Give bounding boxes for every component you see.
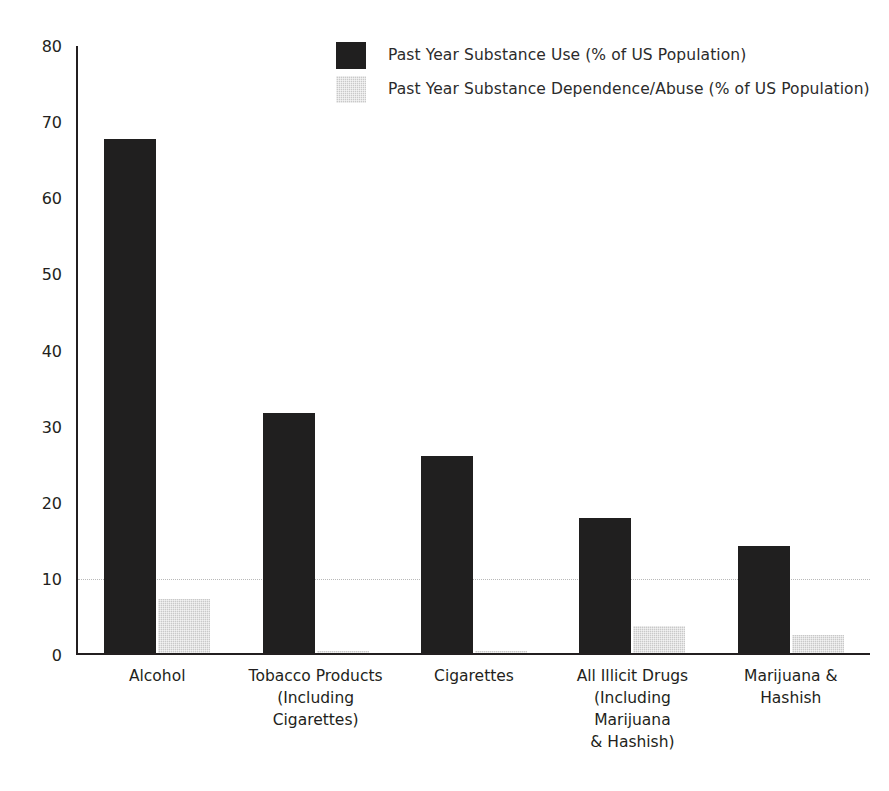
bar-substance-use[interactable] — [579, 518, 631, 654]
x-axis-tick-label: All Illicit Drugs(Including Marijuana& H… — [553, 665, 711, 753]
bar-substance-use[interactable] — [263, 413, 315, 653]
y-axis-tick-label: 30 — [42, 417, 62, 436]
bar-substance-use[interactable] — [738, 546, 790, 653]
bar-group — [553, 46, 711, 653]
bar-chart-figure: Past Year Substance Use (% of US Populat… — [0, 0, 889, 791]
y-axis-tick-label: 20 — [42, 493, 62, 512]
x-axis-tick-label-line: Tobacco Products — [238, 665, 392, 687]
y-axis-tick-label: 50 — [42, 265, 62, 284]
x-axis-tick-label: Tobacco Products(Including Cigarettes) — [236, 665, 394, 753]
x-axis-tick-label-line: (Including Marijuana — [555, 687, 709, 731]
x-axis-tick-label-line: Marijuana & Hashish — [714, 665, 868, 709]
bar-substance-dependence[interactable] — [633, 626, 685, 653]
x-axis-tick-label: Cigarettes — [395, 665, 553, 753]
y-axis-tick-label: 0 — [52, 646, 62, 665]
bar-substance-dependence[interactable] — [475, 651, 527, 653]
bar-substance-dependence[interactable] — [158, 599, 210, 653]
x-axis-tick-label-line: All Illicit Drugs — [555, 665, 709, 687]
bar-substance-use[interactable] — [104, 139, 156, 653]
y-axis-tick-label: 40 — [42, 341, 62, 360]
bar-substance-use[interactable] — [421, 456, 473, 653]
bar-group — [78, 46, 236, 653]
bar-group — [236, 46, 394, 653]
x-axis-tick-label-line: & Hashish) — [555, 731, 709, 753]
y-axis-tick-label: 70 — [42, 113, 62, 132]
x-axis-tick-label: Marijuana & Hashish — [712, 665, 870, 753]
y-axis-tick-label: 10 — [42, 569, 62, 588]
x-axis-line — [76, 653, 870, 655]
plot-area: 01020304050607080 — [76, 46, 870, 655]
x-axis-tick-label-line: Cigarettes — [397, 665, 551, 687]
x-axis-tick-label: Alcohol — [78, 665, 236, 753]
bar-group — [395, 46, 553, 653]
bar-substance-dependence[interactable] — [317, 651, 369, 653]
bar-substance-dependence[interactable] — [792, 635, 844, 653]
x-axis-tick-labels: AlcoholTobacco Products(Including Cigare… — [78, 665, 870, 753]
x-axis-tick-label-line: (Including Cigarettes) — [238, 687, 392, 731]
bar-group — [712, 46, 870, 653]
bar-groups — [78, 46, 870, 653]
y-axis-tick-label: 60 — [42, 189, 62, 208]
y-axis-tick-label: 80 — [42, 37, 62, 56]
x-axis-tick-label-line: Alcohol — [80, 665, 234, 687]
